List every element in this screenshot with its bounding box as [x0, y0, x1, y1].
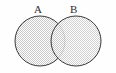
set-b-circle [51, 16, 101, 66]
venn-diagram-figure: A B [0, 0, 116, 73]
set-b-label: B [70, 4, 77, 15]
venn-diagram-canvas [0, 0, 116, 73]
set-a-label: A [34, 4, 42, 15]
